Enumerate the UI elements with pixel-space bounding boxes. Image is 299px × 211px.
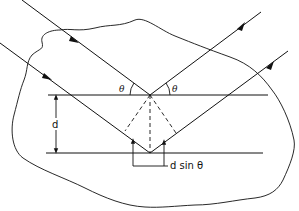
arrow-head-icon xyxy=(266,61,274,70)
incident-ray-1 xyxy=(22,0,150,95)
theta-arc-right xyxy=(166,83,170,95)
reflected-ray-2 xyxy=(150,51,288,153)
spacing-label: d xyxy=(52,119,58,130)
path-difference-label: d sin θ xyxy=(170,160,203,171)
theta-arc-left xyxy=(130,83,134,95)
crystal-boundary xyxy=(12,19,294,207)
theta-label-right: θ xyxy=(172,84,178,94)
arrow-head-icon xyxy=(42,73,52,80)
theta-label-left: θ xyxy=(119,84,125,94)
reflected-ray-1 xyxy=(150,12,261,95)
bragg-diagram: θ θ d d sin θ xyxy=(0,0,299,211)
arrow-head-icon xyxy=(69,36,79,43)
incident-ray-2 xyxy=(0,43,150,153)
